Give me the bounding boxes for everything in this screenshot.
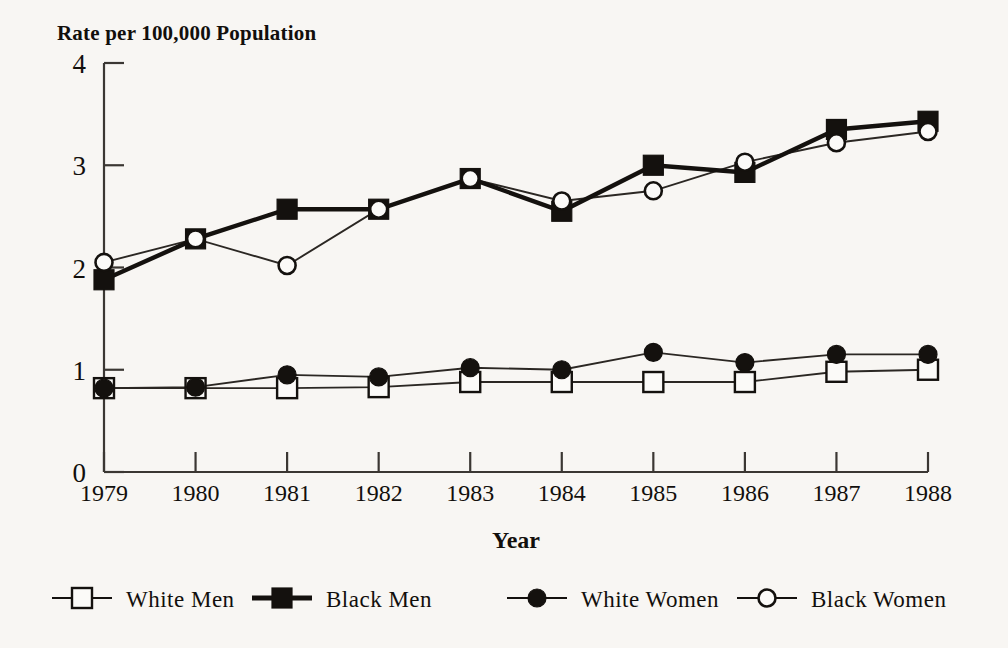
- marker-white-women: [553, 361, 571, 379]
- x-tick-label: 1980: [172, 480, 220, 506]
- x-tick-label: 1987: [812, 480, 860, 506]
- marker-legend-white-women: [528, 589, 546, 607]
- marker-black-men: [94, 270, 114, 290]
- legend-label: Black Men: [326, 587, 432, 612]
- x-axis-caption: Year: [492, 527, 540, 553]
- x-tick-label: 1982: [355, 480, 403, 506]
- chart-title: Rate per 100,000 Population: [57, 21, 316, 45]
- marker-white-women: [919, 345, 937, 363]
- marker-legend-black-women: [759, 590, 776, 607]
- legend-label: Black Women: [811, 587, 946, 612]
- x-tick-label: 1984: [538, 480, 586, 506]
- rate-per-100000-line-chart: Rate per 100,000 Population 01234 197919…: [0, 0, 1008, 648]
- marker-white-women: [95, 379, 113, 397]
- marker-black-men: [277, 199, 297, 219]
- x-tick-label: 1981: [263, 480, 311, 506]
- marker-white-women: [370, 368, 388, 386]
- legend-item-black-men: Black Men: [252, 587, 432, 612]
- y-tick-label: 2: [73, 254, 87, 284]
- marker-black-women: [736, 154, 753, 171]
- marker-legend-white-men: [72, 588, 92, 608]
- legend-item-white-men: White Men: [52, 587, 235, 612]
- marker-white-men: [735, 372, 755, 392]
- marker-white-women: [736, 354, 754, 372]
- y-tick-label: 1: [73, 356, 87, 386]
- x-tick-label: 1988: [904, 480, 952, 506]
- marker-black-women: [370, 201, 387, 218]
- marker-white-women: [187, 378, 205, 396]
- marker-black-women: [645, 182, 662, 199]
- marker-white-women: [278, 366, 296, 384]
- marker-white-women: [644, 343, 662, 361]
- x-tick-label: 1986: [721, 480, 769, 506]
- marker-white-men: [643, 372, 663, 392]
- x-tick-label: 1983: [446, 480, 494, 506]
- marker-white-women: [827, 345, 845, 363]
- x-tick-label: 1985: [629, 480, 677, 506]
- marker-black-women: [187, 230, 204, 247]
- marker-black-women: [553, 193, 570, 210]
- legend-label: White Men: [126, 587, 235, 612]
- marker-black-women: [462, 170, 479, 187]
- marker-black-women: [279, 257, 296, 274]
- marker-black-women: [96, 254, 113, 271]
- marker-white-women: [461, 359, 479, 377]
- marker-black-women: [828, 134, 845, 151]
- y-tick-label: 4: [73, 49, 87, 79]
- legend-label: White Women: [581, 587, 719, 612]
- marker-black-women: [920, 123, 937, 140]
- x-tick-label: 1979: [80, 480, 128, 506]
- y-tick-label: 3: [73, 151, 87, 181]
- marker-legend-black-men: [272, 588, 292, 608]
- marker-black-men: [643, 155, 663, 175]
- marker-white-men: [826, 362, 846, 382]
